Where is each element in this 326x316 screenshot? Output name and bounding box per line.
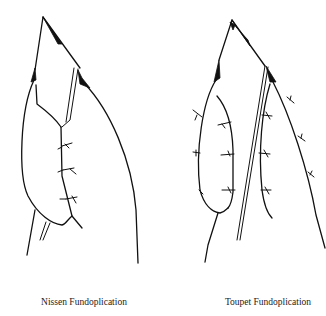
caption-nissen: Nissen Fundoplication — [41, 297, 127, 307]
caption-toupet: Toupet Fundoplication — [225, 297, 311, 307]
fundoplication-figure: Nissen Fundoplication Toupet Fundoplicat… — [0, 0, 326, 316]
nissen-illustration — [22, 17, 138, 263]
toupet-illustration — [193, 20, 325, 262]
illustration-drawing — [0, 0, 326, 316]
